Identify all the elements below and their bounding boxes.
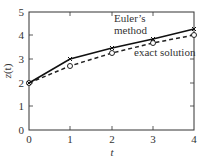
svg-text:z(t): z(t) (1, 63, 14, 79)
x-tick-1: 1 (67, 133, 73, 145)
plot-frame (29, 12, 194, 130)
y-tick-1: 1 (19, 100, 25, 112)
exact-solution-line (29, 35, 194, 83)
exact-solution-markers (27, 33, 197, 86)
x-tick-4: 4 (191, 133, 197, 145)
chart: 0 1 2 3 4 0 1 2 3 4 5 t z(t) Euler’s met… (0, 0, 200, 158)
x-tick-2: 2 (109, 133, 115, 145)
y-axis-label: z(t) (1, 63, 14, 79)
y-tick-3: 3 (19, 53, 25, 65)
euler-label-line1: Euler’s (114, 12, 146, 24)
euler-label-line2: method (114, 24, 147, 36)
y-tick-5: 5 (19, 6, 25, 18)
y-tick-2: 2 (19, 77, 25, 89)
exact-solution-label: exact solution (134, 46, 196, 58)
x-axis-label: t (110, 146, 114, 158)
x-tick-3: 3 (150, 133, 156, 145)
y-tick-0: 0 (19, 124, 25, 136)
y-tick-4: 4 (19, 29, 25, 41)
x-tick-0: 0 (26, 133, 32, 145)
